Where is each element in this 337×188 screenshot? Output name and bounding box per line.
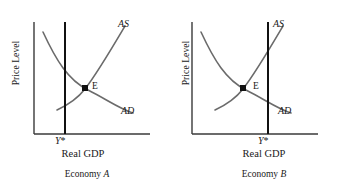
as-curve — [57, 26, 125, 110]
equilibrium-label: E — [253, 81, 259, 91]
as-ad-figure: Price Level AS AD E Y* Real GDP Economy … — [0, 0, 337, 188]
ad-curve — [201, 32, 291, 113]
potential-output-label: Y* — [258, 135, 269, 146]
equilibrium-point — [240, 85, 246, 91]
panel-caption-letter: A — [103, 169, 109, 179]
panel-caption-prefix: Economy — [65, 169, 104, 179]
as-curve — [215, 26, 283, 110]
panel-economy-a: Price Level AS AD E Y* Real GDP Economy … — [0, 0, 168, 188]
as-curve-label: AS — [273, 18, 284, 29]
chart-economy-b — [168, 0, 336, 140]
potential-output-star: * — [264, 135, 269, 146]
y-axis-title: Price Level — [181, 20, 191, 106]
ad-curve — [43, 32, 133, 113]
ad-curve-label: AD — [278, 105, 291, 116]
x-axis-title: Real GDP — [180, 148, 337, 159]
ad-curve-label: AD — [121, 105, 134, 116]
panel-caption-b: Economy B — [180, 169, 337, 179]
x-axis-title: Real GDP — [0, 148, 167, 159]
as-curve-label: AS — [118, 18, 129, 29]
panel-caption-a: Economy A — [3, 169, 171, 179]
potential-output-label: Y* — [55, 135, 66, 146]
equilibrium-label: E — [92, 81, 98, 91]
panel-economy-b: Price Level AS AD E Y* Real GDP Economy … — [168, 0, 336, 188]
panel-caption-letter: B — [280, 169, 286, 179]
panel-caption-prefix: Economy — [242, 169, 281, 179]
y-axis-title: Price Level — [11, 20, 21, 106]
chart-economy-a — [0, 0, 168, 140]
equilibrium-point — [82, 85, 88, 91]
potential-output-star: * — [61, 135, 66, 146]
